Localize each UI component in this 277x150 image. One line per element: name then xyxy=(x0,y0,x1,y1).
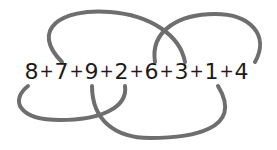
number-7: 7 xyxy=(54,59,69,85)
number-2: 2 xyxy=(114,59,129,85)
plus-sign: + xyxy=(219,58,234,84)
number-3: 3 xyxy=(174,59,189,85)
number-9: 9 xyxy=(84,59,99,85)
number-6: 6 xyxy=(144,59,159,85)
plus-sign: + xyxy=(69,58,84,84)
number-8: 8 xyxy=(24,59,39,85)
plus-sign: + xyxy=(159,58,174,84)
plus-sign: + xyxy=(129,58,144,84)
bottom-right-arc xyxy=(92,86,225,138)
equation: 8+7+9+2+6+3+1+4 xyxy=(24,59,249,86)
plus-sign: + xyxy=(189,58,204,84)
number-1: 1 xyxy=(204,59,219,85)
number-4: 4 xyxy=(234,59,249,85)
top-left-arc xyxy=(49,12,185,62)
plus-sign: + xyxy=(99,58,114,84)
bottom-left-arc xyxy=(19,86,125,120)
plus-sign: + xyxy=(39,58,54,84)
